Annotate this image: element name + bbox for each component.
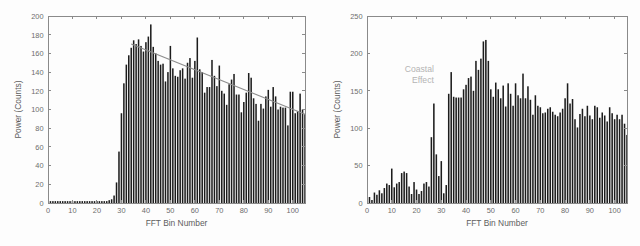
bar xyxy=(572,99,574,203)
x-tick-label: 50 xyxy=(166,206,174,215)
bar xyxy=(527,86,529,203)
right-chart-panel: 0102030405060708090100050100150200250FFT… xyxy=(320,0,640,246)
bar xyxy=(406,173,408,203)
bar xyxy=(606,121,608,203)
bar xyxy=(408,187,410,203)
y-tick-label: 160 xyxy=(31,49,43,58)
bar xyxy=(584,116,586,203)
bar xyxy=(250,78,252,203)
y-tick-label: 0 xyxy=(358,199,362,208)
bar xyxy=(268,90,270,203)
bar xyxy=(258,121,260,203)
x-axis-title: FFT Bin Number xyxy=(146,218,208,228)
x-tick-label: 100 xyxy=(608,206,620,215)
bar xyxy=(170,46,172,203)
y-tick-label: 20 xyxy=(35,180,43,189)
bar xyxy=(557,116,559,203)
bar xyxy=(450,72,452,203)
bar xyxy=(152,47,154,203)
x-tick-label: 20 xyxy=(93,206,101,215)
bar xyxy=(130,48,132,203)
bar xyxy=(302,110,304,204)
bar xyxy=(376,195,378,203)
x-tick-label: 60 xyxy=(511,206,519,215)
trend-line xyxy=(131,44,305,114)
bar xyxy=(211,60,213,203)
bar xyxy=(294,113,296,203)
bar xyxy=(157,61,159,203)
bar xyxy=(280,107,282,203)
bar xyxy=(587,106,589,203)
bar xyxy=(398,182,400,203)
bar xyxy=(246,93,248,203)
bar xyxy=(426,182,428,203)
bar xyxy=(441,161,443,203)
bar xyxy=(389,185,391,203)
bar xyxy=(453,97,455,203)
y-tick-label: 120 xyxy=(31,87,43,96)
bar xyxy=(468,78,470,203)
bar xyxy=(574,119,576,203)
bar xyxy=(455,98,457,203)
bar xyxy=(270,107,272,203)
bar xyxy=(381,193,383,203)
bar xyxy=(177,77,179,203)
bar xyxy=(155,53,157,203)
bar xyxy=(199,69,201,203)
bar xyxy=(184,79,186,203)
bar xyxy=(597,107,599,203)
bar xyxy=(480,59,482,203)
bar xyxy=(611,113,613,203)
bar xyxy=(579,114,581,203)
bar xyxy=(535,95,537,203)
bar xyxy=(197,38,199,204)
bar xyxy=(248,73,250,203)
bar xyxy=(272,87,274,203)
bar xyxy=(148,37,150,203)
bar xyxy=(299,94,301,203)
bar xyxy=(265,96,267,203)
bar xyxy=(500,98,502,203)
bar xyxy=(545,112,547,203)
bar xyxy=(505,107,507,203)
bar xyxy=(391,169,393,203)
bar xyxy=(121,113,123,203)
bar xyxy=(260,104,262,203)
bar xyxy=(111,199,113,203)
bar xyxy=(507,83,509,203)
bar xyxy=(520,98,522,203)
bar xyxy=(172,68,174,203)
bars-group xyxy=(50,24,306,203)
bar xyxy=(515,83,517,203)
x-tick-label: 100 xyxy=(287,206,299,215)
bar xyxy=(525,98,527,203)
bar xyxy=(512,106,514,203)
bar xyxy=(522,74,524,203)
bar xyxy=(542,113,544,203)
bar xyxy=(609,107,611,203)
x-tick-label: 0 xyxy=(46,206,50,215)
bar xyxy=(428,187,430,203)
bar xyxy=(448,94,450,203)
bar xyxy=(621,115,623,203)
bar xyxy=(421,191,423,203)
bar xyxy=(165,81,167,203)
bar xyxy=(135,44,137,203)
x-tick-label: 30 xyxy=(437,206,445,215)
bar xyxy=(403,172,405,203)
bar xyxy=(241,112,243,203)
bar xyxy=(118,152,120,203)
bar xyxy=(275,96,277,203)
bar xyxy=(445,185,447,203)
y-tick-label: 50 xyxy=(354,161,362,170)
y-tick-label: 0 xyxy=(39,199,43,208)
x-tick-label: 90 xyxy=(586,206,594,215)
x-tick-label: 70 xyxy=(215,206,223,215)
bar xyxy=(530,100,532,203)
bar xyxy=(601,112,603,203)
bar xyxy=(175,76,177,203)
bar xyxy=(488,61,490,203)
bar xyxy=(243,102,245,203)
bar xyxy=(589,115,591,203)
bar xyxy=(160,65,162,203)
